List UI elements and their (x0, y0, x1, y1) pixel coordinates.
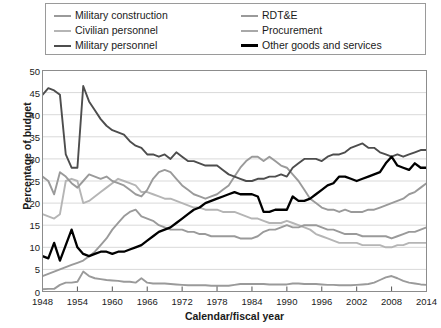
legend-item[interactable]: Civilian personnel (54, 23, 168, 38)
x-tick-label: 1996 (311, 296, 332, 307)
legend-label: RDT&E (262, 8, 298, 23)
y-tick-label: 40 (14, 109, 40, 120)
legend-item[interactable]: Procurement (241, 23, 382, 38)
y-tick-label: 15 (14, 220, 40, 231)
legend-label: Procurement (262, 23, 322, 38)
legend-item[interactable]: RDT&E (241, 8, 382, 23)
legend-label: Military personnel (75, 38, 157, 53)
y-tick-label: 50 (14, 65, 40, 76)
data-series-layer (43, 86, 427, 292)
y-tick-label: 45 (14, 87, 40, 98)
x-tick-label: 2014 (416, 296, 437, 307)
x-tick-label: 1990 (276, 296, 297, 307)
series-line (43, 86, 427, 181)
legend-swatch-line-icon (241, 30, 258, 32)
y-axis-ticks: 05101520253035404550 (12, 70, 40, 292)
legend-column-right: RDT&EProcurementOther goods and services (241, 8, 382, 53)
legend-label: Civilian personnel (75, 23, 158, 38)
y-tick-label: 5 (14, 264, 40, 275)
legend-item[interactable]: Other goods and services (241, 38, 382, 53)
legend-label: Military construction (75, 8, 168, 23)
line-chart-svg (42, 70, 427, 292)
x-tick-label: 2002 (346, 296, 367, 307)
chart-legend: Military constructionCivilian personnelM… (45, 3, 426, 55)
legend-swatch-line-icon (241, 15, 258, 17)
x-tick-label: 1966 (137, 296, 158, 307)
x-axis-title: Calendar/fiscal year (42, 310, 427, 322)
x-tick-label: 2008 (381, 296, 402, 307)
x-tick-label: 1954 (67, 296, 88, 307)
y-tick-label: 25 (14, 176, 40, 187)
legend-swatch-line-icon (54, 45, 71, 47)
x-tick-label: 1972 (172, 296, 193, 307)
y-tick-label: 10 (14, 242, 40, 253)
y-tick-label: 20 (14, 198, 40, 209)
x-tick-label: 1948 (32, 296, 53, 307)
legend-item[interactable]: Military personnel (54, 38, 168, 53)
legend-column-left: Military constructionCivilian personnelM… (54, 8, 168, 53)
y-tick-label: 35 (14, 131, 40, 142)
legend-swatch-line-icon (54, 15, 71, 17)
y-tick-label: 30 (14, 153, 40, 164)
legend-item[interactable]: Military construction (54, 8, 168, 23)
x-tick-label: 1960 (102, 296, 123, 307)
chart-figure: Military constructionCivilian personnelM… (0, 0, 441, 328)
series-line (43, 157, 427, 212)
x-tick-label: 1978 (206, 296, 227, 307)
series-line (43, 210, 427, 276)
legend-swatch-line-icon (54, 30, 71, 32)
x-axis-ticks: 1948195419601966197219781984199019962002… (42, 294, 427, 308)
plot-area (42, 70, 427, 292)
series-line (43, 272, 427, 290)
legend-label: Other goods and services (262, 38, 382, 53)
x-tick-label: 1984 (241, 296, 262, 307)
legend-swatch-line-icon (241, 44, 258, 47)
